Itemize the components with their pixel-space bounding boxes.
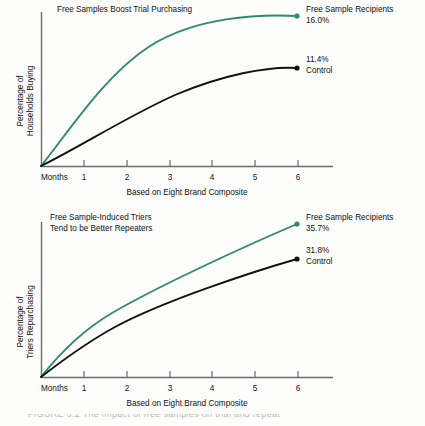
series-endpoint-control (294, 65, 299, 70)
x-axis-ticks (84, 371, 298, 377)
y-axis-label: Percentage of Triers Repurchasing (16, 285, 35, 359)
svg-text:16.0%: 16.0% (306, 16, 329, 25)
svg-text:Free Sample Recipients: Free Sample Recipients (306, 213, 393, 222)
svg-text:Percentage of: Percentage of (16, 296, 25, 348)
svg-text:Percentage of: Percentage of (16, 75, 25, 127)
svg-text:Tend to be Better Repeaters: Tend to be Better Repeaters (50, 224, 152, 233)
chart-trial-purchasing: Free Samples Boost Trial Purchasing Perc… (0, 0, 425, 200)
svg-text:Triers Repurchasing: Triers Repurchasing (26, 285, 35, 359)
svg-text:35.7%: 35.7% (306, 224, 329, 233)
x-axis-label: Based on Eight Brand Composite (126, 399, 248, 408)
x-tick-1: 1 (82, 384, 87, 393)
svg-text:11.4%: 11.4% (306, 55, 329, 64)
x-tick-6: 6 (296, 173, 301, 182)
series-endpoint-free-sample-recipients (294, 13, 299, 18)
x-tick-2: 2 (125, 173, 130, 182)
figure-container: Free Samples Boost Trial Purchasing Perc… (0, 0, 425, 426)
x-axis-ticks (84, 160, 298, 166)
y-axis-label: Percentage of Households Buying (16, 65, 35, 136)
chart-title: Free Sample-Induced Triers Tend to be Be… (50, 213, 152, 233)
svg-text:Free Sample-Induced Triers: Free Sample-Induced Triers (50, 213, 151, 222)
svg-text:Households Buying: Households Buying (26, 65, 35, 136)
svg-text:Free Sample Recipients: Free Sample Recipients (306, 5, 393, 14)
x-tick-origin: Months (41, 384, 68, 393)
series-label-free-sample-recipients: Free Sample Recipients 16.0% (306, 5, 393, 25)
x-tick-5: 5 (253, 384, 258, 393)
series-line-control (41, 259, 297, 377)
x-tick-3: 3 (168, 384, 173, 393)
series-label-free-sample-recipients: Free Sample Recipients 35.7% (306, 213, 393, 233)
x-tick-6: 6 (296, 384, 301, 393)
figure-caption-text: FIGURE 3.2 The impact of free samples on… (28, 414, 425, 419)
x-tick-1: 1 (82, 173, 87, 182)
figure-caption-cropped: FIGURE 3.2 The impact of free samples on… (0, 414, 425, 426)
svg-text:Control: Control (306, 66, 333, 75)
series-line-free-sample-recipients (41, 16, 297, 166)
x-tick-4: 4 (210, 384, 215, 393)
x-tick-5: 5 (253, 173, 258, 182)
svg-text:31.8%: 31.8% (306, 246, 329, 255)
chart-title: Free Samples Boost Trial Purchasing (57, 5, 193, 14)
svg-text:Control: Control (306, 257, 333, 266)
x-axis-label: Based on Eight Brand Composite (126, 188, 248, 197)
x-tick-3: 3 (168, 173, 173, 182)
chart-repeat-purchasing: Free Sample-Induced Triers Tend to be Be… (0, 200, 425, 410)
x-tick-origin: Months (41, 173, 68, 182)
x-tick-2: 2 (125, 384, 130, 393)
series-label-control: 11.4% Control (306, 55, 333, 75)
series-label-control: 31.8% Control (306, 246, 333, 266)
x-tick-4: 4 (210, 173, 215, 182)
series-endpoint-free-sample-recipients (294, 221, 299, 226)
series-endpoint-control (294, 256, 299, 261)
series-line-free-sample-recipients (41, 224, 297, 377)
